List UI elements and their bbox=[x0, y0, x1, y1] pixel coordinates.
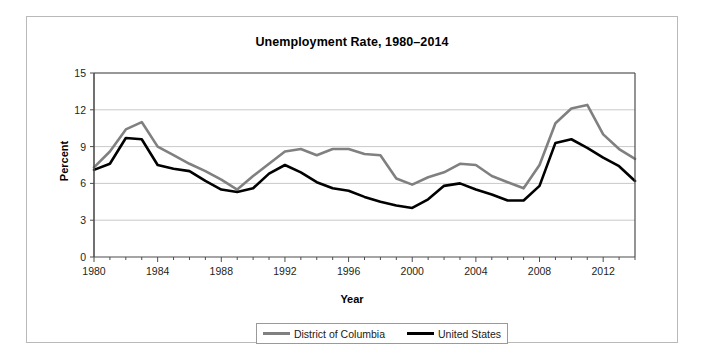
svg-text:2000: 2000 bbox=[401, 265, 425, 277]
x-tick-marks bbox=[94, 257, 635, 262]
svg-text:9: 9 bbox=[80, 141, 86, 153]
svg-text:2012: 2012 bbox=[591, 265, 615, 277]
series-lines bbox=[94, 105, 635, 208]
x-axis-label: Year bbox=[27, 293, 677, 305]
svg-text:6: 6 bbox=[80, 177, 86, 189]
svg-text:1988: 1988 bbox=[210, 265, 234, 277]
svg-text:1984: 1984 bbox=[146, 265, 170, 277]
svg-text:1980: 1980 bbox=[82, 265, 106, 277]
legend-label-district-of-columbia: District of Columbia bbox=[294, 328, 385, 340]
axis-frame bbox=[94, 73, 635, 257]
svg-text:2004: 2004 bbox=[464, 265, 488, 277]
svg-text:1996: 1996 bbox=[337, 265, 361, 277]
svg-text:0: 0 bbox=[80, 251, 86, 263]
legend-swatch-district-of-columbia bbox=[263, 332, 290, 335]
svg-text:2008: 2008 bbox=[528, 265, 552, 277]
svg-text:1992: 1992 bbox=[273, 265, 297, 277]
svg-text:12: 12 bbox=[74, 104, 86, 116]
legend-item-district-of-columbia: District of Columbia bbox=[263, 328, 385, 340]
y-tick-labels: 03691215 bbox=[74, 67, 86, 263]
x-tick-labels: 198019841988199219962000200420082012 bbox=[82, 265, 615, 277]
svg-text:3: 3 bbox=[80, 214, 86, 226]
legend-item-united-states: United States bbox=[407, 328, 501, 340]
chart-legend: District of Columbia United States bbox=[256, 323, 508, 344]
chart-figure: Unemployment Rate, 1980–2014 Percent 036… bbox=[26, 16, 678, 343]
legend-swatch-united-states bbox=[407, 332, 434, 335]
svg-text:15: 15 bbox=[74, 67, 86, 79]
legend-label-united-states: United States bbox=[438, 328, 501, 340]
